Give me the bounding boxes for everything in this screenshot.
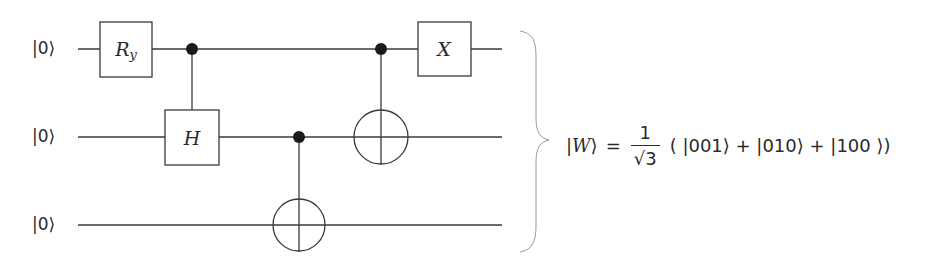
control-dot-icon <box>293 131 305 143</box>
qubit-label-1: |0⟩ <box>32 128 55 145</box>
curly-brace-icon <box>520 31 549 252</box>
fraction-denominator: √3 <box>631 145 660 169</box>
h-gate-label: H <box>184 129 201 148</box>
x-gate-label: X <box>437 40 451 59</box>
normalization-fraction: 1 √3 <box>631 122 660 169</box>
control-dot-icon <box>375 43 387 55</box>
w-state-formula: |W⟩ = 1 √3 ( |001⟩ + |010⟩ + |100 ⟩) <box>566 116 891 174</box>
equals-sign: = <box>606 135 621 156</box>
w-state-ket: |W⟩ <box>566 135 598 156</box>
fraction-numerator: 1 <box>636 122 653 145</box>
ket-close: ⟩ <box>591 135 598 156</box>
qubit-label-2: |0⟩ <box>32 216 55 233</box>
ry-gate-subscript: y <box>129 47 136 62</box>
qubit-label-0: |0⟩ <box>32 40 55 57</box>
superposition-terms: ( |001⟩ + |010⟩ + |100 ⟩) <box>670 135 891 156</box>
control-dot-icon <box>186 43 198 55</box>
w-symbol: W <box>572 135 591 156</box>
ry-gate-label: Ry <box>115 40 137 61</box>
ry-gate-main: R <box>115 38 129 60</box>
